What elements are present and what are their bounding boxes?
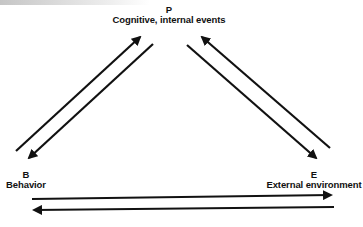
arrow-e-to-p	[202, 37, 330, 148]
arrow-p-to-b	[29, 44, 153, 158]
diagram-canvas: P Cognitive, internal events B Behavior …	[0, 0, 363, 227]
arrow-b-to-e	[32, 195, 331, 199]
node-b: B Behavior	[6, 170, 46, 190]
arrow-e-to-b	[34, 207, 334, 210]
node-p-label: Cognitive, internal events	[112, 15, 225, 25]
node-e-label: External environment	[266, 180, 361, 190]
node-b-label: Behavior	[6, 180, 46, 190]
node-p: P Cognitive, internal events	[112, 5, 225, 25]
arrows-layer	[0, 0, 363, 227]
arrow-b-to-p	[16, 37, 140, 151]
arrow-p-to-e	[187, 45, 316, 158]
node-e: E External environment	[266, 170, 361, 190]
